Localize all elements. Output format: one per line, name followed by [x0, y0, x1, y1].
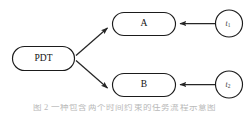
- figure-caption-text: 图 2 一种包含两个时间约束的任务流程示意图: [0, 104, 249, 112]
- node-b[interactable]: B: [113, 74, 176, 97]
- node-pdt-label: PDT: [35, 53, 53, 63]
- flow-diagram: PDT A B t1 t2 图 2 一种包含两个时间约束的任务流程示意图: [0, 0, 249, 113]
- node-t2[interactable]: t2: [216, 71, 243, 98]
- edge-pdt-to-b: [76, 61, 108, 89]
- figure-caption: 图 2 一种包含两个时间约束的任务流程示意图: [0, 104, 249, 113]
- node-t2-label-subscript: 2: [228, 84, 231, 90]
- diagram-canvas: PDT A B t1 t2: [0, 0, 249, 113]
- node-t1-label-subscript: 1: [228, 23, 231, 29]
- node-b-label: B: [141, 79, 147, 89]
- node-a[interactable]: A: [113, 13, 176, 36]
- node-pdt[interactable]: PDT: [13, 47, 75, 71]
- node-t1[interactable]: t1: [216, 10, 243, 37]
- edge-pdt-to-a: [76, 28, 108, 56]
- node-a-label: A: [141, 18, 148, 28]
